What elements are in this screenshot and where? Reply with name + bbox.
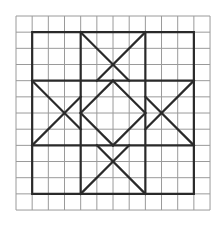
grid-pattern-figure — [0, 0, 220, 228]
square-grid — [16, 16, 210, 210]
